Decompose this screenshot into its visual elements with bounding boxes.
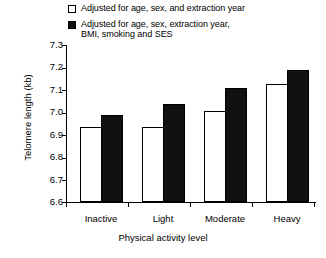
y-tick-6-9: 6.9: [66, 135, 70, 136]
y-tick-label: 7.1: [50, 84, 63, 96]
x-axis-line: [66, 202, 316, 203]
plot-area: 7.3 7.2 7.1 7.0 6.9 6.8 6.7 6.6: [66, 45, 316, 203]
legend-item-fully-adjusted: Adjusted for age, sex, extraction year, …: [68, 19, 324, 40]
bar-moderate-fully-adjusted: [225, 88, 247, 202]
y-tick-6-7: 6.7: [66, 180, 70, 181]
y-tick-7-2: 7.2: [66, 68, 70, 69]
y-tick-label: 6.8: [50, 151, 63, 163]
y-tick-label: 6.7: [50, 174, 63, 186]
x-category-label-heavy: Heavy: [274, 213, 301, 224]
x-category-label-moderate: Moderate: [205, 213, 245, 224]
y-tick-label: 7.2: [50, 61, 63, 73]
legend-open-square-icon: [68, 5, 76, 13]
x-tick-4: [314, 202, 315, 207]
x-axis-title: Physical activity level: [0, 232, 326, 243]
y-tick-7-1: 7.1: [66, 90, 70, 91]
y-axis-line: [66, 45, 67, 203]
x-tick-3: [252, 202, 253, 207]
x-tick-1: [128, 202, 129, 207]
telomere-length-bar-chart: Adjusted for age, sex, and extraction ye…: [0, 0, 326, 258]
bar-heavy-fully-adjusted: [287, 70, 309, 202]
chart-legend: Adjusted for age, sex, and extraction ye…: [68, 3, 324, 45]
x-category-label-inactive: Inactive: [85, 213, 118, 224]
y-tick-7-3: 7.3: [66, 45, 70, 46]
bar-light-unadjusted: [142, 127, 164, 202]
bar-heavy-unadjusted: [266, 84, 288, 202]
legend-item-unadjusted: Adjusted for age, sex, and extraction ye…: [68, 3, 324, 14]
bar-moderate-unadjusted: [204, 111, 226, 202]
legend-item-label: Adjusted for age, sex, extraction year, …: [81, 19, 230, 40]
y-tick-6-8: 6.8: [66, 158, 70, 159]
x-tick-2: [190, 202, 191, 207]
y-tick-label: 6.9: [50, 129, 63, 141]
bar-light-fully-adjusted: [163, 104, 185, 202]
bar-inactive-fully-adjusted: [101, 115, 123, 202]
y-tick-7-0: 7.0: [66, 113, 70, 114]
y-tick-label: 6.6: [50, 196, 63, 208]
legend-filled-square-icon: [68, 21, 76, 29]
y-tick-label: 7.3: [50, 39, 63, 51]
x-category-label-light: Light: [153, 213, 174, 224]
bar-inactive-unadjusted: [80, 127, 102, 202]
y-tick-label: 7.0: [50, 106, 63, 118]
y-axis-title: Telomere length (kb): [22, 43, 33, 193]
legend-item-label: Adjusted for age, sex, and extraction ye…: [81, 3, 245, 14]
x-tick-0: [66, 202, 67, 207]
